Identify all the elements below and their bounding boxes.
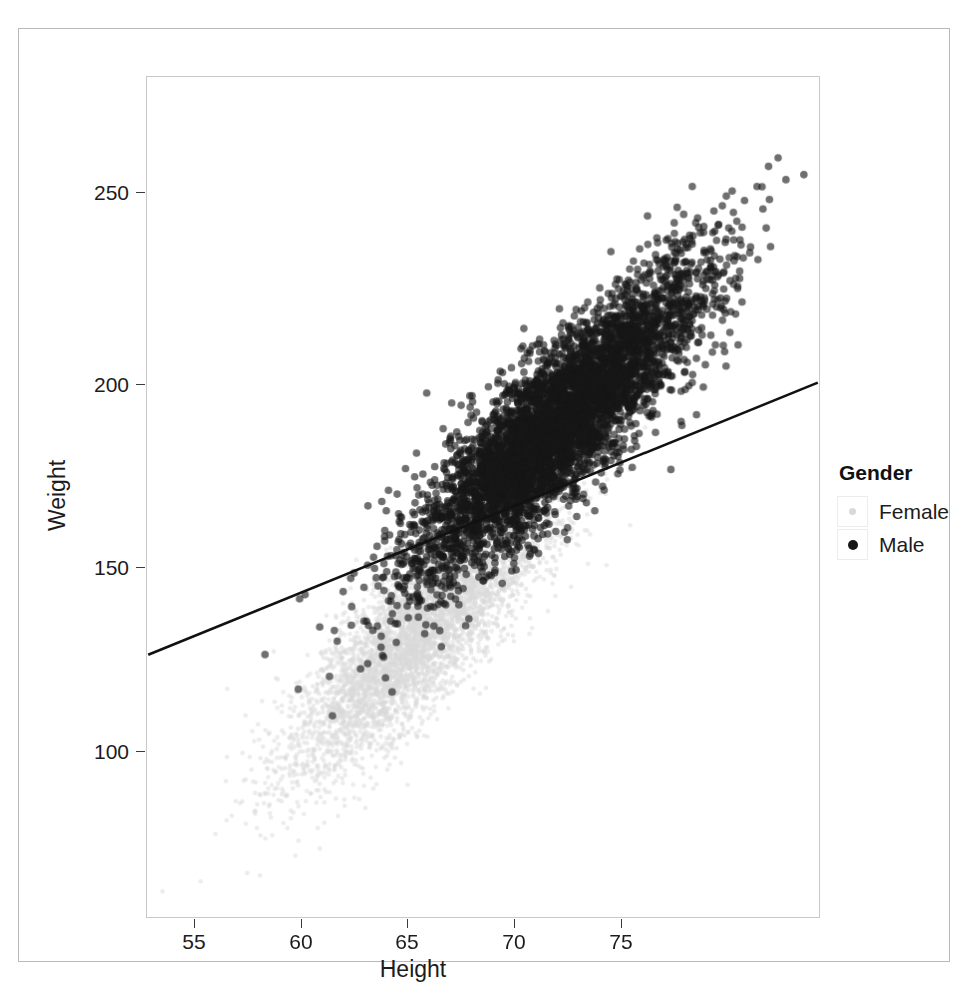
- legend-key-female: [837, 496, 868, 527]
- y-tick-label-100: 100: [59, 740, 129, 764]
- x-tick-label-75: 75: [591, 930, 651, 954]
- legend-item-male[interactable]: Male: [837, 528, 949, 561]
- x-tick-mark-70: [514, 919, 515, 928]
- male-marker-icon: [848, 540, 858, 550]
- legend-title: Gender: [839, 461, 949, 485]
- scatter-plot-panel: [146, 76, 820, 918]
- x-tick-mark-55: [194, 919, 195, 928]
- y-tick-mark-250: [136, 192, 145, 193]
- x-tick-mark-75: [621, 919, 622, 928]
- y-tick-label-250: 250: [59, 181, 129, 205]
- legend-label-female: Female: [879, 500, 949, 524]
- figure-page: 250 200 150 100 55 60 65 70 75 Weight He…: [0, 0, 968, 1001]
- x-tick-mark-60: [301, 919, 302, 928]
- legend-key-male: [837, 529, 868, 560]
- x-tick-label-60: 60: [271, 930, 331, 954]
- legend-label-male: Male: [879, 533, 925, 557]
- x-tick-label-55: 55: [164, 930, 224, 954]
- x-axis-title: Height: [353, 956, 473, 983]
- y-tick-label-150: 150: [59, 556, 129, 580]
- x-tick-label-70: 70: [484, 930, 544, 954]
- y-tick-mark-150: [136, 567, 145, 568]
- scatter-points-canvas: [147, 77, 819, 917]
- y-tick-mark-100: [136, 751, 145, 752]
- legend-item-female[interactable]: Female: [837, 495, 949, 528]
- female-marker-icon: [849, 508, 856, 515]
- y-tick-mark-200: [136, 384, 145, 385]
- x-tick-mark-65: [407, 919, 408, 928]
- y-axis-title: Weight: [44, 436, 71, 556]
- x-tick-label-65: 65: [377, 930, 437, 954]
- legend: Gender Female Male: [837, 461, 949, 561]
- figure-outer-border: 250 200 150 100 55 60 65 70 75 Weight He…: [18, 28, 950, 962]
- y-tick-label-200: 200: [59, 373, 129, 397]
